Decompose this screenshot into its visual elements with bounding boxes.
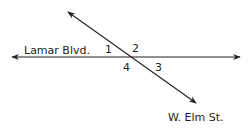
angle-2-label: 2 — [132, 42, 139, 55]
intersecting-streets-diagram: Lamar Blvd. W. Elm St. 1 2 3 4 — [0, 0, 251, 131]
angle-3-label: 3 — [155, 61, 162, 74]
angle-4-label: 4 — [123, 61, 130, 74]
lamar-blvd-label: Lamar Blvd. — [24, 44, 90, 57]
w-elm-st-label: W. Elm St. — [168, 111, 224, 124]
angle-1-label: 1 — [105, 43, 112, 56]
